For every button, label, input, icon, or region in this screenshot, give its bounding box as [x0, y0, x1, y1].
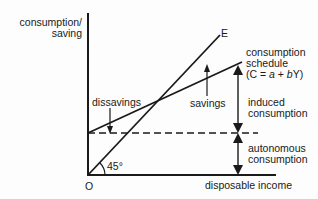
consumption-equation: (C = a + bY)	[246, 69, 306, 80]
y-axis-label: consumption/ saving	[8, 17, 82, 39]
autonomous-label-line2: consumption	[248, 154, 308, 165]
induced-arrowhead-bottom	[233, 123, 243, 133]
savings-arrowhead	[204, 64, 210, 72]
induced-arrowhead-top	[233, 65, 243, 75]
equation-prefix: (C =	[246, 68, 269, 80]
induced-consumption-label: induced consumption	[248, 97, 308, 119]
consumption-function-diagram: consumption/ saving E consumption schedu…	[0, 0, 318, 199]
dissavings-label: dissavings	[92, 97, 141, 108]
origin-label: O	[85, 181, 93, 192]
equation-suffix: Y)	[293, 68, 304, 80]
autonomous-arrowhead-bottom	[233, 165, 243, 175]
consumption-schedule-label: consumption schedule (C = a + bY)	[246, 47, 306, 80]
y-axis-label-line2: saving	[8, 28, 82, 39]
angle-label: 45°	[107, 161, 123, 172]
savings-label: savings	[190, 98, 226, 109]
autonomous-consumption-label: autonomous consumption	[248, 143, 308, 165]
x-axis-label: disposable income	[205, 180, 292, 191]
line-45-label: E	[221, 28, 228, 39]
induced-label-line2: consumption	[248, 108, 308, 119]
autonomous-arrowhead-top	[233, 133, 243, 143]
angle-arc	[100, 163, 105, 175]
equation-plus: +	[275, 68, 287, 80]
